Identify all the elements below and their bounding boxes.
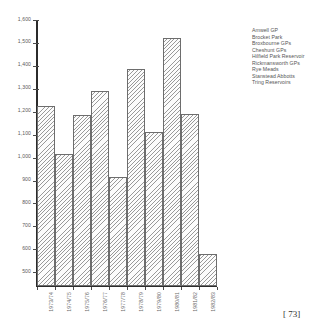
legend-item: Tring Reservoirs: [252, 79, 318, 86]
bar: [127, 69, 145, 286]
bar: [199, 254, 217, 286]
y-axis-tick-label: 1,400: [18, 61, 31, 67]
x-axis-tick: [199, 287, 200, 290]
y-axis-tick-label: 1,000: [18, 153, 31, 159]
chart-page: 5006007008009001,0001,1001,2001,3001,400…: [0, 0, 318, 335]
y-axis-tick-label: 500: [22, 268, 31, 274]
x-axis-tick: [37, 287, 38, 290]
x-axis-label: 1979/80: [156, 292, 162, 312]
y-axis-tick-label: 1,200: [18, 107, 31, 113]
bar-chart: 5006007008009001,0001,1001,2001,3001,400…: [0, 0, 220, 335]
x-axis-label: 1973/74: [48, 292, 54, 312]
x-axis-tick: [145, 287, 146, 290]
plot-area: [37, 18, 217, 287]
x-axis-label: 1981/82: [192, 292, 198, 312]
x-axis-tick: [181, 287, 182, 290]
x-axis-label: 1980/81: [174, 292, 180, 312]
x-axis-tick: [91, 287, 92, 290]
x-axis-tick: [109, 287, 110, 290]
x-axis-label: 1975/76: [84, 292, 90, 312]
x-axis-label: 1978/79: [138, 292, 144, 312]
y-axis-tick-label: 1,500: [18, 38, 31, 44]
chart-legend: Amwell GPBrocket ParkBroxbourne GPsChesh…: [252, 27, 318, 86]
x-axis-tick: [217, 287, 218, 290]
y-axis-tick-label: 1,600: [18, 16, 31, 22]
x-axis-label: 1974/75: [66, 292, 72, 312]
bar: [37, 106, 55, 286]
x-axis-label: 1976/77: [102, 292, 108, 312]
y-axis-tick-label: 700: [22, 222, 31, 228]
x-axis-tick: [55, 287, 56, 290]
y-axis-tick-label: 800: [22, 199, 31, 205]
x-axis-tick: [127, 287, 128, 290]
x-axis-tick: [73, 287, 74, 290]
bar: [181, 114, 199, 286]
bar: [91, 91, 109, 286]
x-axis-tick: [163, 287, 164, 290]
page-folio: [ 73]: [283, 309, 300, 319]
bar: [73, 115, 91, 286]
bar: [145, 132, 163, 286]
y-axis-tick-label: 1,300: [18, 84, 31, 90]
y-axis-tick-label: 600: [22, 245, 31, 251]
bar: [55, 154, 73, 286]
bar: [109, 177, 127, 286]
x-axis-label: 1977/78: [120, 292, 126, 312]
x-axis-label: 1982/83: [210, 292, 216, 312]
y-axis-tick-label: 1,100: [18, 130, 31, 136]
y-axis-tick-label: 900: [22, 176, 31, 182]
bar: [163, 38, 181, 286]
